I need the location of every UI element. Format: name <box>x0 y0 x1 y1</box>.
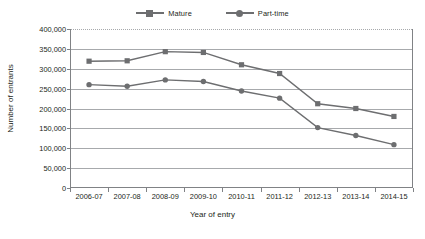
data-point-circle[interactable] <box>163 77 168 82</box>
x-tick-mark <box>222 188 223 192</box>
legend-label-part-time: Part-time <box>258 9 289 18</box>
legend-item-part-time[interactable]: Part-time <box>226 8 289 18</box>
x-tick-label: 2007-08 <box>114 192 141 201</box>
series-mature <box>86 49 396 119</box>
legend-marker-circle-icon <box>226 8 254 18</box>
x-tick-mark <box>108 188 109 192</box>
data-point-square[interactable] <box>86 59 91 64</box>
x-tick-label: 2012-13 <box>304 192 331 201</box>
x-tick-label: 2009-10 <box>190 192 217 201</box>
y-tick-label: 200,000 <box>0 104 66 113</box>
chart-legend: Mature Part-time <box>0 6 425 20</box>
y-tick-label: 250,000 <box>0 84 66 93</box>
y-tick-label: 0 <box>0 184 66 193</box>
series-layer <box>70 29 413 188</box>
data-point-circle[interactable] <box>239 88 244 93</box>
data-point-circle[interactable] <box>277 95 282 100</box>
data-point-circle[interactable] <box>86 82 91 87</box>
legend-item-mature[interactable]: Mature <box>136 8 192 18</box>
x-tick-label: 2010-11 <box>228 192 255 201</box>
x-axis-ticks: 2006-072007-082008-092009-102010-112011-… <box>70 192 413 206</box>
legend-marker-square-icon <box>136 8 164 18</box>
plot-wrapper <box>70 29 413 188</box>
data-point-circle[interactable] <box>124 84 129 89</box>
data-point-circle[interactable] <box>391 142 396 147</box>
data-point-square[interactable] <box>239 62 244 67</box>
x-tick-mark <box>70 188 71 192</box>
x-axis-title-text: Year of entry <box>190 210 235 219</box>
x-tick-mark <box>375 188 376 192</box>
y-tick-label: 400,000 <box>0 25 66 34</box>
data-point-square[interactable] <box>315 101 320 106</box>
data-point-square[interactable] <box>201 50 206 55</box>
line-chart: Mature Part-time Number of entrants 050,… <box>0 0 425 239</box>
x-tick-mark <box>337 188 338 192</box>
x-tick-label: 2013-14 <box>342 192 369 201</box>
y-tick-label: 50,000 <box>0 164 66 173</box>
legend-label-mature: Mature <box>168 9 192 18</box>
y-tick-label: 100,000 <box>0 144 66 153</box>
x-tick-label: 2008-09 <box>152 192 179 201</box>
series-part-time <box>86 77 396 147</box>
data-point-square[interactable] <box>353 106 358 111</box>
x-tick-mark <box>261 188 262 192</box>
x-tick-mark <box>146 188 147 192</box>
data-point-circle[interactable] <box>353 133 358 138</box>
x-tick-mark <box>184 188 185 192</box>
x-tick-label: 2006-07 <box>75 192 102 201</box>
x-tick-mark <box>413 188 414 192</box>
x-tick-mark <box>299 188 300 192</box>
data-point-circle[interactable] <box>201 79 206 84</box>
y-tick-label: 150,000 <box>0 124 66 133</box>
data-point-circle[interactable] <box>315 125 320 130</box>
y-tick-label: 300,000 <box>0 64 66 73</box>
x-tick-label: 2011-12 <box>266 192 293 201</box>
data-point-square[interactable] <box>125 58 130 63</box>
data-point-square[interactable] <box>163 49 168 54</box>
data-point-square[interactable] <box>277 71 282 76</box>
x-axis-title: Year of entry <box>0 210 425 219</box>
data-point-square[interactable] <box>391 114 396 119</box>
x-tick-label: 2014-15 <box>380 192 407 201</box>
series-line <box>89 52 394 117</box>
y-tick-label: 350,000 <box>0 44 66 53</box>
